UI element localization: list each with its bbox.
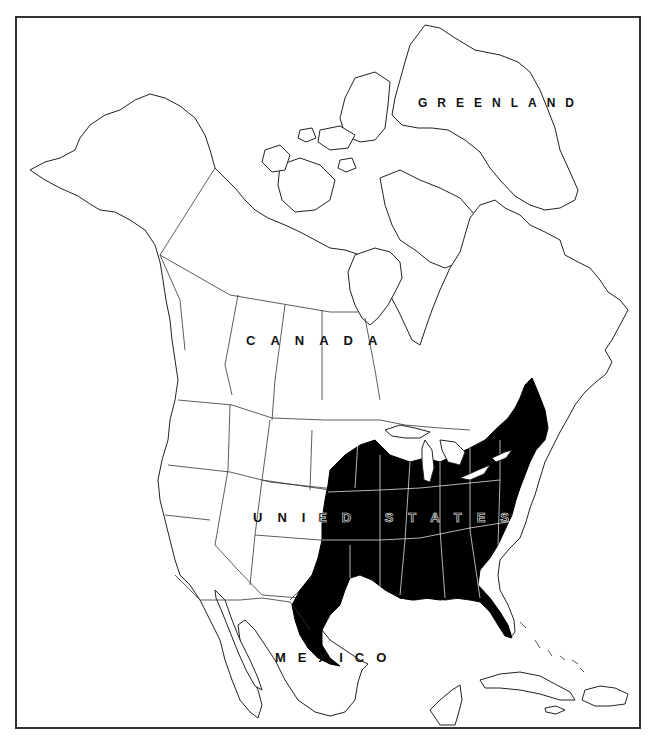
- yucatan-peninsula: [430, 685, 462, 725]
- arctic-island-banks: [262, 145, 290, 172]
- jamaica: [545, 706, 565, 714]
- greenland-label: GREENLAND: [418, 96, 584, 110]
- north-america-map: [0, 0, 651, 738]
- hispaniola: [582, 686, 628, 706]
- cuba: [480, 672, 575, 700]
- united-states-label-east: ED STATES: [318, 510, 524, 525]
- canada-label: CANADA: [246, 333, 392, 348]
- bahamas: [520, 622, 584, 672]
- arctic-island-small: [298, 128, 316, 142]
- arctic-island-small-2: [338, 158, 356, 172]
- mexico-label: MEXICO: [275, 650, 398, 665]
